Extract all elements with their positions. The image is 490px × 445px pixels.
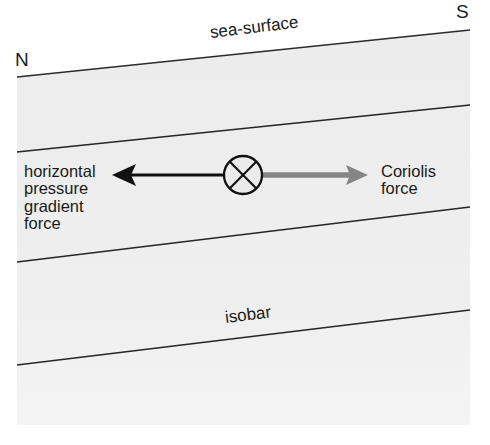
flow-into-page-icon: [224, 156, 262, 194]
south-label: S: [456, 2, 469, 22]
diagram-canvas: N S sea-surface isobar horizontal pressu…: [0, 0, 490, 445]
north-label: N: [15, 50, 29, 70]
coriolis-force-label: Coriolis force: [381, 163, 436, 198]
pressure-gradient-force-label: horizontal pressure gradient force: [24, 163, 96, 233]
